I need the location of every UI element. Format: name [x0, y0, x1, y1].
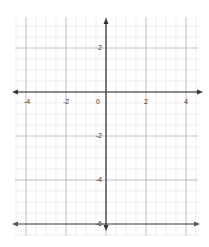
y-tick-labels: 2-2-4-6 — [96, 44, 102, 227]
y-tick-label: -6 — [96, 220, 102, 227]
arrow-up-icon — [104, 18, 109, 24]
coordinate-plane: -4-2024 2-2-4-6 — [0, 0, 209, 247]
x-tick-label: 4 — [184, 98, 188, 105]
y-tick-label: -2 — [96, 132, 102, 139]
arrow-left-icon — [12, 222, 18, 227]
arrow-left-icon — [12, 90, 18, 95]
arrow-down-icon — [104, 225, 109, 231]
x-tick-label: 2 — [144, 98, 148, 105]
y-tick-label: 2 — [98, 44, 102, 51]
arrow-right-icon — [197, 90, 203, 95]
arrow-right-icon — [194, 222, 200, 227]
y-tick-label: -4 — [96, 176, 102, 183]
x-tick-label: -2 — [63, 98, 69, 105]
x-tick-label: 0 — [96, 98, 100, 105]
x-tick-label: -4 — [24, 98, 30, 105]
x-axis — [12, 90, 203, 95]
y-axis — [104, 18, 109, 231]
